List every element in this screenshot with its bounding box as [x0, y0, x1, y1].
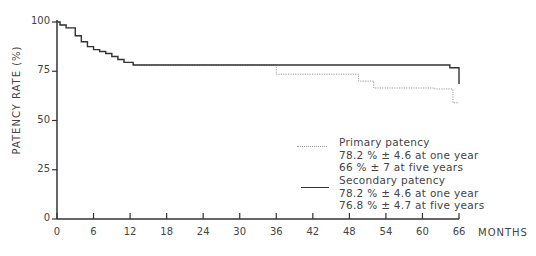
x-tick-label: 12	[124, 226, 137, 237]
legend-secondary-one-year: 78.2 % ± 4.6 at one year	[339, 187, 484, 200]
secondary-patency-curve	[57, 22, 459, 84]
x-tick-label: 30	[233, 226, 246, 237]
y-tick-label: 0	[44, 212, 50, 223]
x-tick-label: 42	[306, 226, 319, 237]
y-tick-label: 100	[31, 15, 50, 26]
legend-secondary-five-year: 76.8 % ± 4.7 at five years	[339, 199, 484, 212]
x-tick-label: 60	[416, 226, 429, 237]
y-axis-label: PATENCY RATE (%)	[11, 46, 22, 155]
x-tick-label: 36	[270, 226, 283, 237]
y-tick-label: 25	[37, 163, 50, 174]
patency-chart: 06121824303642485460660255075100MONTHSPA…	[0, 0, 536, 256]
legend-primary-swatch-icon	[297, 146, 327, 147]
legend-primary-title: Primary patency	[339, 136, 479, 149]
x-tick-label: 0	[54, 226, 60, 237]
legend-secondary: Secondary patency 78.2 % ± 4.6 at one ye…	[305, 174, 484, 212]
x-tick-label: 18	[160, 226, 173, 237]
y-tick-label: 75	[37, 64, 50, 75]
x-tick-label: 6	[90, 226, 96, 237]
legend-primary-one-year: 78.2 % ± 4.6 at one year	[339, 149, 479, 162]
legend-secondary-swatch-icon	[301, 187, 329, 188]
x-axis-label: MONTHS	[478, 227, 528, 238]
x-tick-label: 24	[197, 226, 210, 237]
legend-primary-five-year: 66 % ± 7 at five years	[339, 161, 479, 174]
x-tick-label: 54	[380, 226, 393, 237]
primary-patency-curve	[57, 22, 459, 103]
survival-curves	[57, 22, 459, 103]
x-tick-label: 66	[453, 226, 466, 237]
x-tick-label: 48	[343, 226, 356, 237]
legend-primary: Primary patency 78.2 % ± 4.6 at one year…	[305, 136, 479, 174]
y-tick-label: 50	[37, 114, 50, 125]
legend-secondary-title: Secondary patency	[339, 174, 484, 187]
